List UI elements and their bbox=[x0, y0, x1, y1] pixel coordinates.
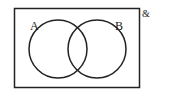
universal-set-label: & bbox=[142, 9, 150, 19]
set-a-label: A bbox=[30, 20, 39, 32]
set-b-label: B bbox=[115, 20, 123, 32]
